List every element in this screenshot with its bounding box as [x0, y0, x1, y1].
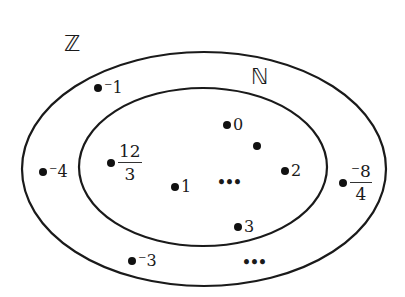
- element-neg3: ⁻3: [128, 253, 157, 269]
- point-marker: [171, 183, 179, 191]
- element-one: 1: [171, 179, 191, 195]
- element-label: ⁻1: [104, 80, 123, 96]
- inner-ellipsis: •••: [217, 177, 241, 187]
- point-marker: [94, 84, 102, 92]
- element-neg8-over-4: ⁻8 4: [339, 163, 372, 203]
- point-marker: [107, 159, 115, 167]
- element-12-over-3: 12 3: [107, 143, 142, 183]
- fraction-numerator: 12: [118, 143, 142, 160]
- fraction-numerator: ⁻8: [350, 163, 372, 180]
- point-marker: [128, 257, 136, 265]
- point-marker: [39, 168, 47, 176]
- fraction-bar: [118, 162, 142, 163]
- venn-diagram-canvas: [0, 0, 405, 297]
- element-label: 0: [233, 117, 243, 133]
- point-marker: [339, 179, 347, 187]
- element-label: ⁻4: [49, 164, 68, 180]
- element-label: ⁻3: [138, 253, 157, 269]
- element-zero: 0: [223, 117, 243, 133]
- element-three: 3: [234, 219, 254, 235]
- fraction-denominator: 4: [355, 186, 366, 203]
- fraction: ⁻8 4: [350, 163, 372, 203]
- element-neg1: ⁻1: [94, 80, 123, 96]
- element-label: 3: [244, 219, 254, 235]
- element-neg4: ⁻4: [39, 164, 68, 180]
- point-marker: [223, 121, 231, 129]
- element-label: 2: [291, 163, 301, 179]
- naturals-set-label: ℕ: [251, 66, 269, 88]
- fraction-bar: [350, 182, 372, 183]
- fraction: 12 3: [118, 143, 142, 183]
- outer-ellipsis: •••: [242, 257, 266, 267]
- fraction-denominator: 3: [124, 166, 135, 183]
- point-marker: [281, 167, 289, 175]
- integers-set-label: ℤ: [64, 33, 80, 55]
- point-marker: [234, 223, 242, 231]
- element-label: 1: [181, 179, 191, 195]
- point-marker: [253, 142, 261, 150]
- element-unlabeled: [253, 142, 263, 150]
- element-two: 2: [281, 163, 301, 179]
